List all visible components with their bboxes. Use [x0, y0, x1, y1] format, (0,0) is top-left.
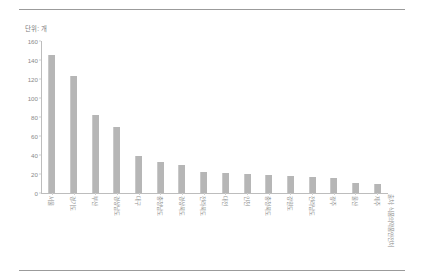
- x-tick-label: 충청북도: [265, 196, 271, 216]
- y-tick-label: 100: [28, 95, 38, 102]
- x-tick-mark: [74, 193, 75, 195]
- bar: [200, 172, 207, 193]
- y-tick-label: 120: [28, 76, 38, 83]
- bottom-divider: [19, 270, 405, 271]
- x-tick-label: 전라북도: [200, 196, 206, 216]
- bar: [222, 173, 229, 193]
- x-tick-mark: [225, 193, 226, 195]
- x-tick-mark: [290, 193, 291, 195]
- plot-area: 020406080100120140160: [41, 41, 388, 193]
- bar: [70, 76, 77, 193]
- x-tick-mark: [377, 193, 378, 195]
- bar: [287, 176, 294, 193]
- y-tick-label: 0: [35, 190, 38, 197]
- unit-label: 단위: 개: [25, 24, 47, 33]
- top-divider: [19, 9, 405, 10]
- x-axis-labels: 서울경기도부산경상남도대구충청남도경상북도전라북도대전인천충청북도강원도전라남도…: [41, 196, 388, 266]
- y-tick-label: 60: [31, 133, 38, 140]
- bar: [178, 165, 185, 193]
- y-tick-label: 80: [31, 114, 38, 121]
- x-tick-mark: [312, 193, 313, 195]
- y-tick-label: 40: [31, 152, 38, 159]
- x-tick-mark: [355, 193, 356, 195]
- x-tick-label: 제주: [373, 196, 379, 206]
- bar: [92, 115, 99, 193]
- x-tick-mark: [182, 193, 183, 195]
- bar: [135, 156, 142, 193]
- x-tick-mark: [117, 193, 118, 195]
- x-tick-mark: [139, 193, 140, 195]
- x-tick-label: 충청남도: [156, 196, 162, 216]
- bar: [352, 183, 359, 193]
- x-tick-label: 경기도: [70, 196, 76, 211]
- x-tick-label: 울산: [352, 196, 358, 206]
- x-tick-label: 대전: [222, 196, 228, 206]
- x-tick-label: 인천: [243, 196, 249, 206]
- x-tick-label: 대구: [135, 196, 141, 206]
- chart-figure: 단위: 개 020406080100120140160 서울경기도부산경상남도대…: [0, 0, 424, 279]
- x-tick-mark: [269, 193, 270, 195]
- bar: [244, 174, 251, 193]
- y-tick-label: 20: [31, 171, 38, 178]
- y-tick-label: 140: [28, 57, 38, 64]
- x-tick-label: 경상북도: [178, 196, 184, 216]
- x-tick-mark: [160, 193, 161, 195]
- x-tick-mark: [52, 193, 53, 195]
- bar: [48, 55, 55, 193]
- bar: [157, 162, 164, 193]
- source-note: 출처: 식품의약품안전처: [388, 194, 394, 247]
- bar: [113, 127, 120, 194]
- x-axis-line: [41, 193, 388, 194]
- bar-series: [41, 41, 388, 193]
- x-tick-label: 부산: [91, 196, 97, 206]
- x-tick-label: 전라남도: [308, 196, 314, 216]
- x-tick-label: 경상남도: [113, 196, 119, 216]
- bar: [330, 178, 337, 193]
- bar: [265, 175, 272, 193]
- x-tick-mark: [95, 193, 96, 195]
- x-tick-label: 강원도: [287, 196, 293, 211]
- x-tick-mark: [247, 193, 248, 195]
- x-tick-mark: [334, 193, 335, 195]
- x-tick-mark: [204, 193, 205, 195]
- y-tick-label: 160: [28, 38, 38, 45]
- x-tick-label: 서울: [48, 196, 54, 206]
- bar: [374, 184, 381, 193]
- bar: [309, 177, 316, 193]
- x-tick-label: 광주: [330, 196, 336, 206]
